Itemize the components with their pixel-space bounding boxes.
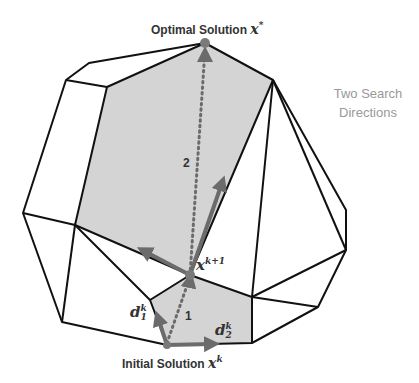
- arrow-d2: [167, 344, 212, 345]
- search-line-2: Directions: [323, 103, 413, 122]
- next-point: [185, 270, 195, 280]
- polytope-diagram: [0, 0, 419, 383]
- arrow-step1-head: [189, 280, 190, 285]
- two-search-directions-label: Two Search Directions: [323, 84, 413, 122]
- d1-label: dk1: [130, 303, 147, 322]
- upper-shaded-face: [75, 43, 273, 275]
- d2-label: dk2: [215, 321, 232, 340]
- optimal-solution-label: Optimal Solution x*: [151, 20, 263, 37]
- initial-point: [163, 341, 171, 349]
- initial-var: xk: [208, 355, 223, 371]
- search-line-1: Two Search: [323, 84, 413, 103]
- initial-solution-label: Initial Solution xk: [122, 354, 223, 371]
- optimal-text: Optimal Solution: [151, 23, 247, 37]
- step-1-label: 1: [185, 309, 192, 323]
- step-2-label: 2: [183, 156, 190, 170]
- next-point-label: xk+1: [196, 256, 225, 274]
- optimal-var: x*: [250, 21, 263, 37]
- optimal-point: [200, 38, 210, 48]
- initial-text: Initial Solution: [122, 357, 205, 371]
